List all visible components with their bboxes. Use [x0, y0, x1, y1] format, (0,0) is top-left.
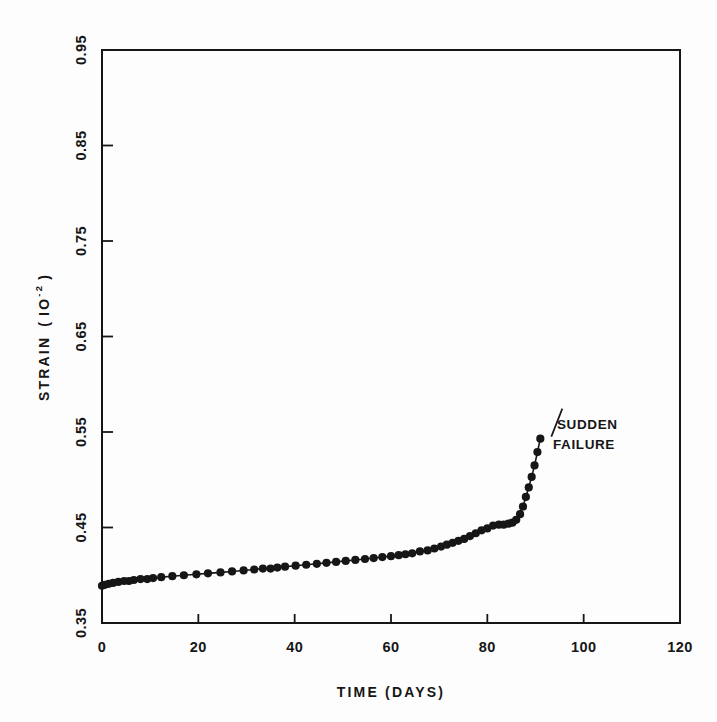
data-point [157, 573, 165, 581]
data-point [528, 473, 536, 481]
data-point [273, 564, 281, 572]
y-tick-label: 0.85 [73, 131, 89, 161]
data-point [332, 558, 340, 566]
x-tick-label: 20 [190, 639, 207, 655]
data-point [180, 571, 188, 579]
x-axis-title: TIME (DAYS) [337, 684, 445, 700]
plot-frame [102, 50, 680, 623]
x-axis-tick-labels: 020406080100120 [98, 639, 693, 655]
x-tick-label: 80 [479, 639, 496, 655]
x-tick-label: 40 [286, 639, 303, 655]
data-point [342, 557, 350, 565]
data-point [228, 567, 236, 575]
data-point [250, 565, 258, 573]
x-tick-label: 60 [383, 639, 400, 655]
data-point [351, 556, 359, 564]
data-point [192, 570, 200, 578]
svg-text:STRAIN(IO-2): STRAIN(IO-2) [33, 273, 52, 401]
sudden-failure-label-line2: FAILURE [553, 437, 615, 452]
data-point [370, 554, 378, 562]
data-point [387, 552, 395, 560]
y-axis-title-unit-base: IO [36, 297, 52, 316]
data-point [240, 566, 248, 574]
x-tick-label: 100 [571, 639, 596, 655]
data-point [216, 568, 224, 576]
y-axis-title-close-paren: ) [36, 273, 52, 280]
data-point [533, 448, 541, 456]
y-axis-title-unit-exponent: -2 [33, 284, 44, 297]
y-tick-label: 0.35 [73, 608, 89, 638]
x-axis-ticks [198, 614, 583, 623]
y-tick-label: 0.45 [73, 513, 89, 543]
data-point [522, 493, 530, 501]
data-point [322, 559, 330, 567]
data-point [416, 547, 424, 555]
x-tick-label: 120 [667, 639, 692, 655]
data-point [149, 574, 157, 582]
y-tick-label: 0.95 [73, 35, 89, 65]
y-tick-label: 0.75 [73, 226, 89, 256]
creep-data-points [98, 435, 545, 590]
y-axis-ticks [102, 146, 113, 528]
y-axis-tick-labels: 0.350.450.550.650.750.850.95 [73, 35, 89, 638]
data-point [525, 483, 533, 491]
y-axis-title: STRAIN(IO-2) [33, 273, 52, 401]
data-point [281, 563, 289, 571]
y-axis-title-open-paren: ( [36, 320, 52, 327]
y-tick-label: 0.65 [73, 322, 89, 352]
sudden-failure-label-line1: SUDDEN [557, 417, 618, 432]
data-point [519, 502, 527, 510]
y-axis-title-name: STRAIN [36, 336, 52, 401]
x-tick-label: 0 [98, 639, 106, 655]
y-tick-label: 0.55 [73, 417, 89, 447]
creep-curve-plot: 020406080100120 0.350.450.550.650.750.85… [0, 0, 717, 722]
data-point [536, 435, 544, 443]
data-point [530, 461, 538, 469]
data-point [168, 572, 176, 580]
data-point [361, 555, 369, 563]
data-point [408, 549, 416, 557]
creep-strain-figure: 020406080100120 0.350.450.550.650.750.85… [0, 0, 717, 722]
data-point [378, 553, 386, 561]
data-point [313, 560, 321, 568]
data-point [302, 561, 310, 569]
creep-curve-line [102, 439, 540, 586]
data-point [204, 569, 212, 577]
data-point [259, 564, 267, 572]
data-point [516, 510, 524, 518]
data-point [292, 562, 300, 570]
